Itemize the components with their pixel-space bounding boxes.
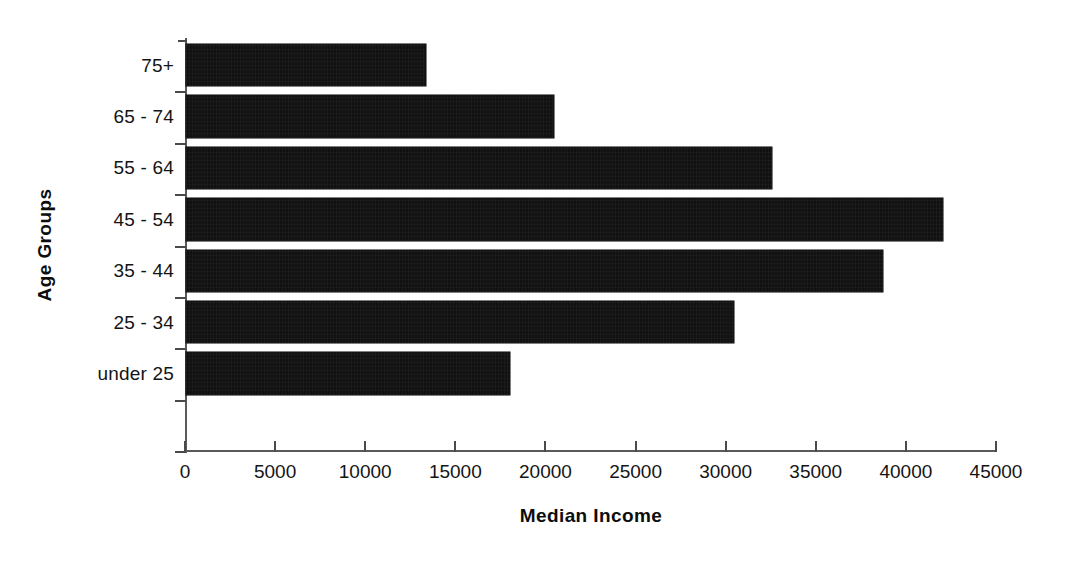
y-axis-tick xyxy=(175,400,186,402)
y-axis-tick-labels: 75+65 - 7455 - 6445 - 5435 - 4425 - 34un… xyxy=(0,0,174,566)
y-axis-tick xyxy=(175,143,186,145)
bar xyxy=(186,250,883,292)
x-axis-tick xyxy=(635,441,637,452)
bar xyxy=(186,147,772,189)
x-axis-tick-label: 40000 xyxy=(879,462,932,481)
x-axis-tick xyxy=(815,441,817,452)
bar xyxy=(186,198,943,240)
y-axis-title: Age Groups xyxy=(34,155,56,335)
x-axis-tick xyxy=(995,441,997,452)
x-axis-tick-label: 35000 xyxy=(789,462,842,481)
x-axis-tick-label: 10000 xyxy=(339,462,392,481)
x-axis-tick xyxy=(544,441,546,452)
y-axis-tick-label: 65 - 74 xyxy=(14,107,174,126)
bar-chart: 75+65 - 7455 - 6445 - 5435 - 4425 - 34un… xyxy=(0,0,1077,566)
x-axis-title: Median Income xyxy=(185,505,997,527)
x-axis-tick-label: 0 xyxy=(180,462,191,481)
y-axis-tick-label: under 25 xyxy=(14,364,174,383)
bar xyxy=(186,95,554,137)
y-axis-tick xyxy=(175,348,186,350)
y-axis-tick xyxy=(175,246,186,248)
bar xyxy=(186,301,734,343)
x-axis-tick-label: 25000 xyxy=(609,462,662,481)
bar xyxy=(186,352,510,394)
y-axis-tick xyxy=(175,297,186,299)
x-axis-tick xyxy=(274,441,276,452)
x-axis-tick xyxy=(364,441,366,452)
y-axis-tick-label: 75+ xyxy=(14,56,174,75)
x-axis-tick xyxy=(184,441,186,452)
y-axis-tick xyxy=(178,40,187,42)
bar xyxy=(186,44,426,86)
x-axis-line xyxy=(185,450,997,452)
x-axis-tick xyxy=(725,441,727,452)
x-axis-tick xyxy=(454,441,456,452)
x-axis-tick-label: 20000 xyxy=(519,462,572,481)
x-axis-tick-label: 45000 xyxy=(970,462,1023,481)
x-axis-tick-label: 15000 xyxy=(429,462,482,481)
y-axis-tick xyxy=(175,194,186,196)
y-axis-tick xyxy=(175,91,186,93)
x-axis-tick xyxy=(905,441,907,452)
x-axis-tick-label: 30000 xyxy=(699,462,752,481)
x-axis-tick-label: 5000 xyxy=(254,462,296,481)
